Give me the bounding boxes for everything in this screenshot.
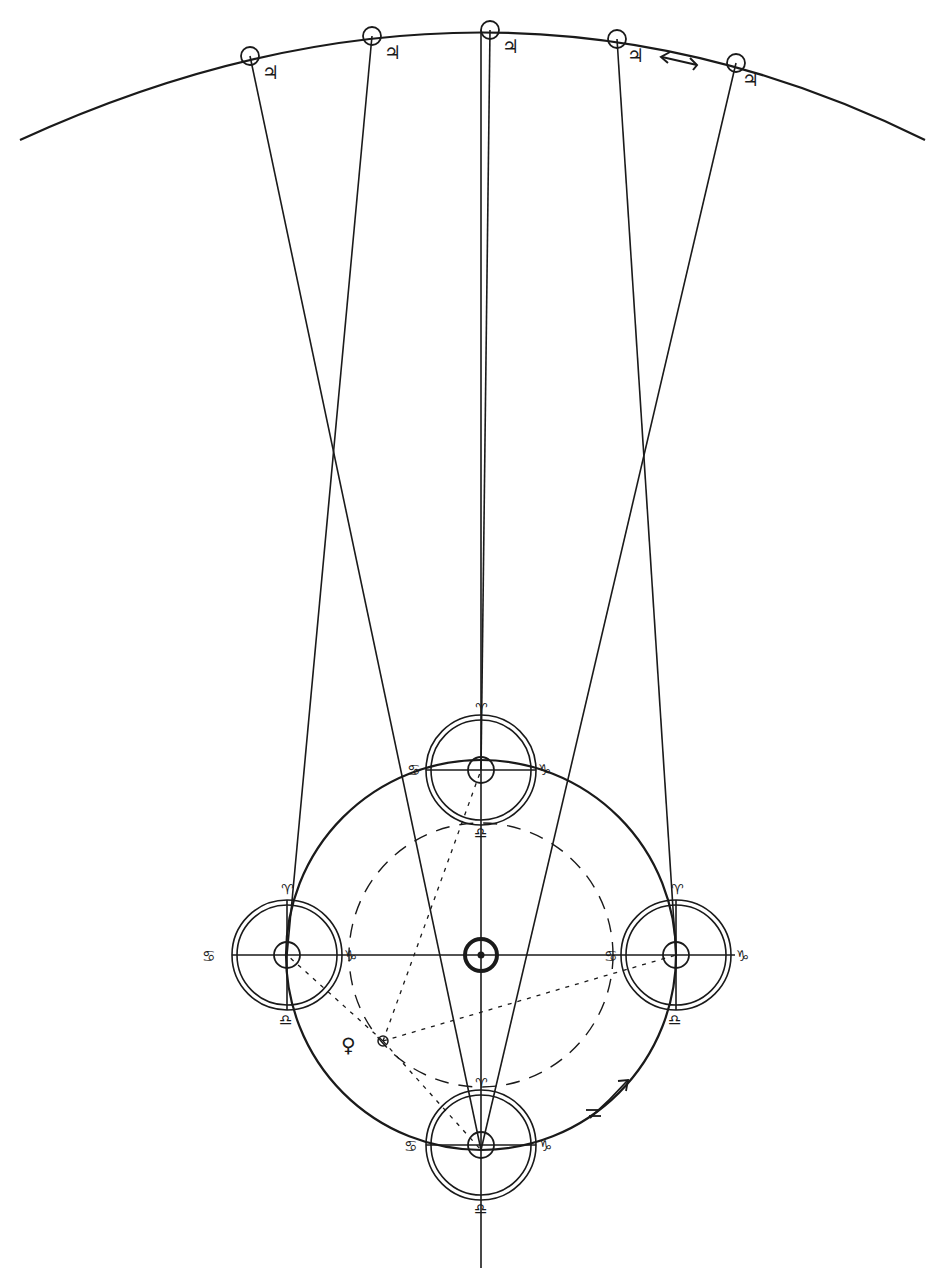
sight-line	[250, 56, 481, 1150]
jupiter-marker: ♃	[241, 47, 279, 83]
sight-line	[287, 36, 372, 955]
venus-position: ♀	[341, 1033, 388, 1057]
earth-direction-arrow-icon	[586, 1080, 628, 1118]
jupiter-symbol: ♃	[627, 44, 644, 66]
libra-label: ♎	[474, 824, 487, 842]
jupiter-marker: ♃	[363, 27, 401, 63]
capricorn-label: ♑	[736, 947, 749, 965]
sight-line	[481, 30, 490, 770]
jupiter-marker: ♃	[608, 30, 644, 66]
sight-line	[617, 39, 676, 955]
jupiter-marker: ♃	[481, 21, 519, 57]
cancer-label: ♋	[404, 1137, 417, 1155]
libra-label: ♎	[668, 1011, 681, 1029]
libra-label: ♎	[474, 1200, 487, 1218]
aries-label: ♈	[281, 881, 294, 897]
jupiter-symbol: ♃	[262, 61, 279, 83]
capricorn-label: ♑	[538, 761, 551, 779]
jupiter-symbol: ♃	[742, 68, 759, 90]
jupiter-positions: ♃ ♃ ♃ ♃ ♃	[241, 21, 759, 90]
jupiter-symbol: ♃	[502, 35, 519, 57]
libra-label: ♎	[279, 1011, 292, 1029]
capricorn-label: ♑	[344, 947, 357, 965]
jupiter-orbit-arc	[20, 33, 925, 141]
jupiter-symbol: ♃	[384, 41, 401, 63]
earth-position-top: ♈ ♋ ♑ ♎	[407, 700, 551, 842]
capricorn-label: ♑	[539, 1137, 552, 1155]
cancer-label: ♋	[202, 947, 215, 965]
aries-label: ♈	[475, 700, 488, 716]
cancer-label: ♋	[407, 761, 420, 779]
jupiter-direction-arrow-icon	[661, 52, 697, 70]
aries-label: ♈	[475, 1075, 488, 1091]
jupiter-marker: ♃	[727, 54, 759, 90]
aries-label: ♈	[671, 881, 684, 897]
cancer-label: ♋	[604, 947, 617, 965]
venus-symbol: ♀	[341, 1033, 356, 1057]
sight-lines	[250, 30, 736, 1150]
retrograde-diagram: ♃ ♃ ♃ ♃ ♃	[0, 0, 941, 1284]
